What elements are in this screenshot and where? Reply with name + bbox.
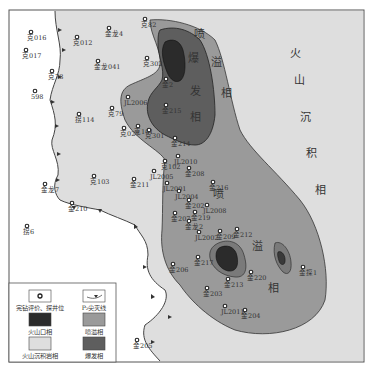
- well-label: 金龙7: [41, 185, 59, 194]
- label-effusive-mid-2: 溢: [252, 239, 263, 253]
- volcanic-facies-map: 喷 溢 相 爆 发 相 火 山 沉 积 相 喷 溢 相 克016克017克785…: [0, 0, 382, 376]
- well-label: 克301: [145, 132, 164, 140]
- well-label: 克027: [120, 130, 139, 138]
- well-label: 金203: [203, 289, 222, 298]
- well-label: 拐6: [23, 227, 34, 236]
- well-label: 金探1: [299, 268, 317, 277]
- well-label: JL2010: [173, 158, 197, 166]
- well-label: 金210: [68, 204, 87, 213]
- legend-label-sedimentary: 火山沉积岩相: [22, 352, 58, 360]
- well-label: 金212: [233, 230, 252, 239]
- legend-sedimentary-swatch: [29, 337, 51, 350]
- label-sedimentary-1: 火: [290, 47, 301, 60]
- well-label: 金205: [133, 341, 152, 350]
- well-label: 金216: [209, 183, 228, 192]
- well-label: 金211: [130, 180, 149, 189]
- well-label: JL2004: [174, 193, 198, 201]
- well-label: 克78: [48, 73, 63, 81]
- legend-label-effusive: 喷溢相: [85, 328, 103, 336]
- label-explosive-2: 发: [190, 84, 201, 98]
- well-label: 克302: [143, 60, 162, 68]
- well-label: 金202: [185, 201, 204, 210]
- well-label: 克103: [90, 178, 109, 186]
- well-label: JL2001: [162, 185, 186, 193]
- label-sedimentary-5: 相: [315, 184, 326, 197]
- label-effusive-top-3: 相: [221, 87, 232, 100]
- well-label: 金龙041: [94, 62, 120, 71]
- well-label: 598: [31, 93, 43, 101]
- well-label: 金2: [162, 80, 173, 89]
- legend-crater-swatch: [29, 313, 51, 326]
- well-label: 克79: [108, 110, 123, 118]
- legend-label-well: 完钻评价、探井位: [16, 304, 64, 312]
- legend-effusive-swatch: [83, 313, 105, 326]
- well-label: 金龙2: [185, 222, 203, 231]
- legend-label-explosive: 爆发相: [85, 352, 103, 360]
- legend-well-swatch: [29, 290, 51, 302]
- legend-explosive-swatch: [83, 337, 105, 350]
- well-label: 克016: [27, 34, 46, 42]
- well-label: 金217: [194, 258, 213, 267]
- well-label: JL2005: [149, 173, 173, 181]
- well-label: 克82: [141, 21, 156, 29]
- label-effusive-mid-3: 相: [268, 282, 279, 295]
- label-effusive-top-1: 喷: [194, 28, 205, 41]
- well-label: 拐114: [75, 115, 94, 124]
- well-label: 克017: [22, 52, 41, 60]
- legend-label-crater: 火山口相: [28, 328, 52, 336]
- label-effusive-top-2: 溢: [211, 55, 222, 69]
- well-label: 金213: [224, 280, 243, 289]
- label-sedimentary-4: 积: [306, 147, 317, 160]
- well-label: 金龙4: [105, 29, 123, 38]
- well-label: JL2006: [123, 99, 147, 107]
- legend-label-pinchout: P₂尖灭线: [82, 304, 107, 312]
- well-label: 金215: [162, 106, 181, 115]
- well-label: JL2002: [194, 234, 218, 242]
- well-label: 金214: [171, 139, 190, 148]
- label-sedimentary-3: 沉: [300, 111, 311, 124]
- legend: 完钻评价、探井位 P₂尖灭线 火山口相 喷溢相 火山沉积岩相 爆发相: [9, 283, 116, 362]
- well-label: 金219: [191, 213, 210, 222]
- legend-pinchout-swatch: [83, 290, 105, 302]
- well-label: 金206: [169, 265, 188, 274]
- well-label: 金204: [241, 311, 260, 320]
- well-label: 克012: [73, 39, 92, 47]
- label-explosive-3: 相: [190, 111, 201, 124]
- label-sedimentary-2: 山: [294, 74, 305, 87]
- label-explosive-1: 爆: [188, 51, 199, 65]
- well-label: 金220: [247, 273, 266, 282]
- well-label: 金208: [185, 169, 204, 178]
